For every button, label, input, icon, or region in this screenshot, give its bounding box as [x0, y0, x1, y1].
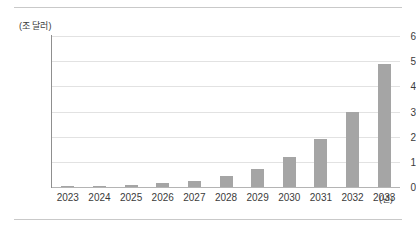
bar-2023 [61, 186, 74, 188]
x-tick-label: 2024 [88, 192, 110, 203]
bar-2030 [283, 157, 296, 187]
bar-2024 [93, 186, 106, 188]
bar-2028 [220, 176, 233, 187]
x-tick-label: 2029 [247, 192, 269, 203]
bar-2031 [314, 139, 327, 187]
bar-2033 [378, 64, 391, 187]
bar-2025 [125, 185, 138, 187]
bar-2029 [251, 169, 264, 187]
bar-2026 [156, 183, 169, 187]
bar-2027 [188, 181, 201, 187]
x-tick-label-group: 2023202420252026202720282029203020312032… [52, 192, 400, 208]
bar-2032 [346, 112, 359, 188]
plot-area [52, 36, 400, 187]
x-axis-unit-label: (년) [379, 192, 393, 205]
bar-chart-figure: (조 달러) 0123456 2023202420252026202720282… [0, 0, 416, 228]
gridline [52, 187, 400, 188]
x-tick-label: 2025 [120, 192, 142, 203]
x-tick-label: 2031 [310, 192, 332, 203]
x-tick-label: 2028 [215, 192, 237, 203]
x-tick-label: 2030 [278, 192, 300, 203]
x-tick-label: 2023 [57, 192, 79, 203]
bar-group [52, 36, 400, 187]
x-tick-label: 2027 [183, 192, 205, 203]
x-tick-label: 2032 [341, 192, 363, 203]
x-tick-label: 2026 [152, 192, 174, 203]
